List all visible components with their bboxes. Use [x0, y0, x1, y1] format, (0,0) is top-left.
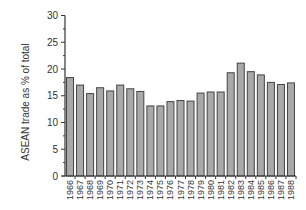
- bar-1988: [287, 83, 294, 176]
- x-tick-label: 1982: [226, 180, 236, 200]
- x-tick-label: 1987: [276, 180, 286, 200]
- bar-1978: [187, 101, 194, 176]
- x-tick-label: 1966: [65, 180, 75, 200]
- y-tick-label: 30: [47, 10, 59, 21]
- bar-1975: [157, 106, 164, 176]
- x-tick-label: 1985: [256, 180, 266, 200]
- x-tick-label: 1979: [196, 180, 206, 200]
- y-tick-label: 15: [47, 90, 59, 101]
- bar-1967: [77, 85, 84, 176]
- x-tick-label: 1977: [176, 180, 186, 200]
- bar-1986: [267, 82, 274, 176]
- bar-1984: [247, 72, 254, 176]
- y-tick-label: 0: [52, 171, 58, 182]
- chart-canvas: 0510152025301966196719681969197019711972…: [0, 0, 306, 210]
- x-tick-label: 1988: [286, 180, 296, 200]
- bar-1972: [127, 89, 134, 176]
- x-tick-label: 1986: [266, 180, 276, 200]
- bar-1980: [207, 92, 214, 176]
- x-tick-label: 1968: [85, 180, 95, 200]
- bar-1969: [97, 88, 104, 176]
- bar-1977: [177, 101, 184, 176]
- bar-1985: [257, 75, 264, 176]
- x-tick-label: 1969: [95, 180, 105, 200]
- bar-1968: [87, 94, 94, 176]
- x-tick-label: 1980: [206, 180, 216, 200]
- bar-1983: [237, 63, 244, 176]
- bar-1966: [67, 78, 74, 176]
- x-tick-label: 1983: [236, 180, 246, 200]
- bar-1974: [147, 106, 154, 176]
- x-tick-label: 1975: [155, 180, 165, 200]
- x-tick-label: 1973: [135, 180, 145, 200]
- y-tick-label: 10: [47, 117, 59, 128]
- y-tick-label: 25: [47, 37, 59, 48]
- bar-1982: [227, 73, 234, 176]
- x-tick-label: 1971: [115, 180, 125, 200]
- bar-1987: [277, 85, 284, 176]
- x-tick-label: 1978: [186, 180, 196, 200]
- bar-1970: [107, 91, 114, 176]
- bar-1981: [217, 92, 224, 176]
- bar-1971: [117, 85, 124, 176]
- bar-1979: [197, 93, 204, 176]
- x-tick-label: 1984: [246, 180, 256, 200]
- x-tick-label: 1972: [125, 180, 135, 200]
- x-tick-label: 1981: [216, 180, 226, 200]
- x-tick-label: 1974: [145, 180, 155, 200]
- bar-1973: [137, 91, 144, 176]
- x-tick-label: 1967: [75, 180, 85, 200]
- x-tick-label: 1976: [165, 180, 175, 200]
- y-tick-label: 20: [47, 64, 59, 75]
- y-tick-label: 5: [52, 144, 58, 155]
- x-tick-label: 1970: [105, 180, 115, 200]
- bar-1976: [167, 102, 174, 176]
